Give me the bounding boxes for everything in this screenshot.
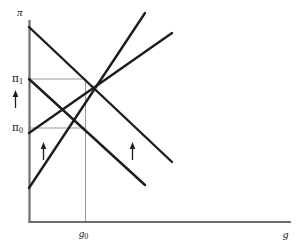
x-tick-label-g0: g0	[79, 229, 88, 241]
axes	[29, 20, 292, 223]
y-tick-pi1-subscript: 1	[19, 77, 23, 86]
phase-diagram-figure: π g π1 π0 g0	[0, 0, 305, 249]
y-tick-pi0-symbol: π	[12, 121, 19, 133]
y-tick-pi1-symbol: π	[12, 72, 19, 84]
arrow-axis-up	[13, 90, 19, 108]
curve-downward-shifted	[29, 79, 145, 185]
y-axis-label: π	[17, 7, 23, 18]
y-tick-label-pi0: π0	[12, 122, 23, 135]
x-axis-label: g	[283, 229, 289, 240]
curves	[29, 13, 172, 188]
arrow-left-up	[41, 142, 47, 160]
y-tick-pi0-subscript: 0	[19, 126, 23, 135]
arrow-right-up	[130, 142, 136, 160]
plot-area	[0, 0, 305, 249]
x-tick-g0-subscript: 0	[84, 232, 88, 241]
curve-upward-initial	[29, 13, 145, 188]
y-tick-label-pi1: π1	[12, 73, 23, 86]
